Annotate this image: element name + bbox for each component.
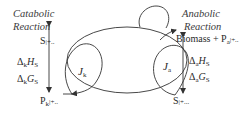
anabolic-reactant: S|+... [173,96,189,106]
anabolic-gibbs: ΔaGS [189,72,210,84]
anabolic-enthalpy: ΔaHS [189,56,210,68]
anabolic-title-line1: Anabolic [182,9,220,20]
anabolic-product: Biomass + Pa|+.. [176,34,239,46]
central-cycle [67,27,187,93]
small-top-loop [139,6,169,28]
catabolic-title-line2: Reaction [13,22,50,33]
catabolic-reactant: S|+.. [40,36,54,46]
catabolic-title-line1: Catabolic [13,9,54,20]
flux-jk-label: Jk [78,66,86,79]
anabolic-title-line2: Reaction [184,22,221,33]
catabolic-product: Pk|+.. [40,96,58,108]
catabolic-enthalpy: ΔkHS [17,57,38,69]
catabolic-gibbs: ΔkGS [17,74,38,86]
coupled-reactions-diagram: Catabolic Reaction S|+.. ΔkHS ΔkGS Pk|+.… [0,0,250,113]
flux-ja-label: Ja [163,61,171,74]
